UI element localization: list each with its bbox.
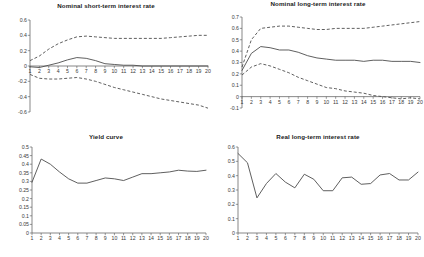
chart-svg-yield-curve: 0.50.450.40.350.30.250.20.150.10.0501234… [0,133,212,257]
svg-text:1: 1 [237,235,240,241]
svg-text:2: 2 [246,235,249,241]
svg-text:0: 0 [24,63,27,69]
svg-text:18: 18 [398,99,404,105]
svg-text:15: 15 [368,235,374,241]
svg-text:0.4: 0.4 [22,161,29,167]
svg-text:7: 7 [293,235,296,241]
svg-text:16: 16 [377,235,383,241]
svg-text:9: 9 [104,235,107,241]
svg-text:0.2: 0.2 [20,48,27,54]
svg-text:17: 17 [176,235,182,241]
svg-text:18: 18 [185,235,191,241]
svg-text:7: 7 [86,235,89,241]
svg-text:0.3: 0.3 [232,59,239,65]
svg-text:16: 16 [380,99,386,105]
svg-text:0.25: 0.25 [19,187,29,193]
svg-text:20: 20 [205,68,211,74]
svg-text:-0.6: -0.6 [18,109,27,115]
svg-text:0.3: 0.3 [22,178,29,184]
chart-svg-nominal-short-term: 0.60.40.20-0.2-0.4-0.6123456789101112131… [0,2,212,130]
svg-text:10: 10 [320,235,326,241]
svg-text:1: 1 [31,235,34,241]
svg-text:10: 10 [111,68,117,74]
chart-panel-yield-curve: Yield curve 0.50.450.40.350.30.250.20.15… [0,133,212,257]
svg-text:8: 8 [303,235,306,241]
svg-text:5: 5 [66,68,69,74]
svg-text:4: 4 [265,235,268,241]
svg-text:-0.1: -0.1 [230,105,239,111]
series-line [242,22,420,68]
svg-text:3: 3 [49,235,52,241]
svg-text:3: 3 [259,99,262,105]
svg-text:5: 5 [67,235,70,241]
svg-text:9: 9 [104,68,107,74]
svg-text:0.1: 0.1 [228,216,235,222]
svg-text:4: 4 [57,68,60,74]
svg-text:15: 15 [157,235,163,241]
svg-text:0.6: 0.6 [20,17,27,23]
svg-text:15: 15 [370,99,376,105]
svg-text:0.5: 0.5 [232,37,239,43]
svg-text:0: 0 [236,94,239,100]
series-line [238,153,418,197]
chart-panel-nominal-short-term-interest-rate: Nominal short-term interest rate 0.60.40… [0,2,212,130]
svg-text:0.05: 0.05 [19,221,29,227]
svg-text:11: 11 [121,68,126,74]
svg-text:20: 20 [203,235,209,241]
svg-text:4: 4 [269,99,272,105]
svg-text:9: 9 [316,99,319,105]
svg-text:0.4: 0.4 [232,48,239,54]
svg-text:17: 17 [387,235,393,241]
svg-text:16: 16 [166,235,172,241]
svg-text:12: 12 [342,99,348,105]
svg-text:3: 3 [47,68,50,74]
series-line [242,64,420,99]
svg-text:0.5: 0.5 [228,158,235,164]
chart-panel-real-long-term-interest-rate: Real long-term interest rate 0.60.50.40.… [212,133,424,257]
svg-text:13: 13 [139,235,145,241]
svg-text:2: 2 [250,99,253,105]
svg-text:0.2: 0.2 [228,201,235,207]
svg-text:12: 12 [339,235,345,241]
svg-text:20: 20 [417,99,423,105]
svg-text:16: 16 [168,68,174,74]
svg-text:11: 11 [333,99,338,105]
svg-text:10: 10 [112,235,118,241]
svg-text:0.5: 0.5 [22,144,29,150]
svg-text:0.3: 0.3 [228,187,235,193]
svg-text:13: 13 [352,99,358,105]
svg-text:0: 0 [232,230,235,236]
svg-text:18: 18 [396,235,402,241]
svg-text:15: 15 [158,68,164,74]
svg-text:0.2: 0.2 [232,71,239,77]
svg-text:17: 17 [389,99,395,105]
svg-text:0.1: 0.1 [22,213,29,219]
svg-text:20: 20 [415,235,421,241]
svg-text:7: 7 [85,68,88,74]
svg-text:1: 1 [29,68,32,74]
svg-text:0.6: 0.6 [228,144,235,150]
svg-text:17: 17 [177,68,183,74]
svg-text:6: 6 [287,99,290,105]
svg-text:0.4: 0.4 [228,173,235,179]
svg-text:0.15: 0.15 [19,204,29,210]
svg-text:0.35: 0.35 [19,170,29,176]
svg-text:14: 14 [149,68,155,74]
svg-text:5: 5 [274,235,277,241]
svg-text:2: 2 [38,68,41,74]
svg-text:9: 9 [312,235,315,241]
svg-text:8: 8 [94,68,97,74]
svg-text:8: 8 [95,235,98,241]
svg-text:12: 12 [130,68,136,74]
chart-panel-nominal-long-term-interest-rate: Nominal long-term interest rate 0.70.60.… [212,0,424,130]
series-line [30,35,208,60]
svg-text:11: 11 [330,235,335,241]
svg-text:4: 4 [58,235,61,241]
svg-text:14: 14 [361,99,367,105]
svg-text:19: 19 [196,68,202,74]
svg-text:14: 14 [358,235,364,241]
svg-text:7: 7 [297,99,300,105]
svg-text:6: 6 [76,235,79,241]
series-line [30,74,208,108]
svg-text:0.7: 0.7 [232,14,239,20]
